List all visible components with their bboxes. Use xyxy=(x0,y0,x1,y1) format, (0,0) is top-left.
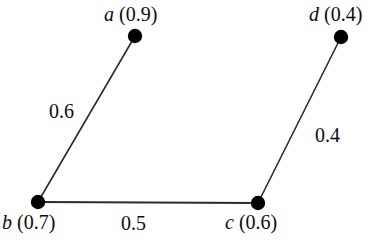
node-a xyxy=(128,29,142,43)
node-label-b: b (0.7) xyxy=(2,212,55,232)
node-label-d: d (0.4) xyxy=(309,4,362,24)
node-label-a: a (0.9) xyxy=(104,4,157,24)
node-d xyxy=(334,30,348,44)
edge-weight-a-b: 0.6 xyxy=(49,101,74,121)
node-value-a: (0.9) xyxy=(119,3,157,25)
edge-weight-b-c: 0.5 xyxy=(121,213,146,233)
edge-b-c xyxy=(38,202,258,203)
node-id-d: d xyxy=(309,3,319,25)
node-label-c: c (0.6) xyxy=(225,212,277,232)
node-id-b: b xyxy=(2,211,12,233)
node-b xyxy=(31,195,45,209)
node-value-d: (0.4) xyxy=(324,3,362,25)
graph-figure: a (0.9) d (0.4) b (0.7) c (0.6) 0.6 0.5 … xyxy=(0,0,379,242)
node-id-a: a xyxy=(104,3,114,25)
node-id-c: c xyxy=(225,211,234,233)
edge-c-d xyxy=(258,37,341,203)
node-value-b: (0.7) xyxy=(17,211,55,233)
node-c xyxy=(251,196,265,210)
node-value-c: (0.6) xyxy=(239,211,277,233)
edge-weight-c-d: 0.4 xyxy=(315,125,340,145)
